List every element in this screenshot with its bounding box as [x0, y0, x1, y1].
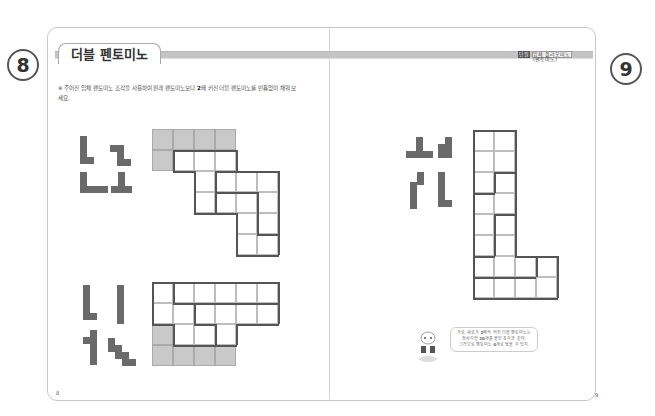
- grid-cell[interactable]: [194, 324, 215, 345]
- grid-cell[interactable]: [194, 192, 215, 213]
- grid-cell[interactable]: [257, 171, 278, 192]
- grid-cell[interactable]: [215, 303, 236, 324]
- grid-cell[interactable]: [473, 193, 494, 214]
- grid-cell[interactable]: [473, 130, 494, 151]
- grid-cell[interactable]: [215, 150, 236, 171]
- grid-cell[interactable]: [536, 277, 557, 298]
- grid-cell[interactable]: [194, 282, 215, 303]
- grid-cell[interactable]: [536, 256, 557, 277]
- grid-cell[interactable]: [473, 172, 494, 193]
- page-title: 더블 펜토미노: [58, 43, 161, 64]
- grid-cell[interactable]: [515, 277, 536, 298]
- mascot-illustration: [413, 330, 443, 365]
- grid-cell[interactable]: [152, 303, 173, 324]
- grid-cell[interactable]: [515, 256, 536, 277]
- grid-cell[interactable]: [152, 282, 173, 303]
- grid-cell[interactable]: [257, 282, 278, 303]
- grid-cell[interactable]: [215, 324, 236, 345]
- grid-cell[interactable]: [473, 214, 494, 235]
- page-number-left: 8: [56, 390, 59, 396]
- page-badge-right: 9: [610, 53, 642, 85]
- grid-cell[interactable]: [215, 282, 236, 303]
- grid-cell[interactable]: [194, 171, 215, 192]
- grid-cell[interactable]: [194, 150, 215, 171]
- grid-cell[interactable]: [257, 213, 278, 234]
- grid-cell[interactable]: [494, 235, 515, 256]
- instruction-prefix: ※ 주어진 입체 펜토미노 조각을 사용하여 원래 펜토미노보다: [58, 85, 197, 91]
- grid-cell[interactable]: [173, 282, 194, 303]
- grid-cell[interactable]: [494, 172, 515, 193]
- grid-cell[interactable]: [494, 193, 515, 214]
- grid-cell[interactable]: [215, 192, 236, 213]
- grid-cell[interactable]: [257, 234, 278, 255]
- hint-line-3: 그러므로 펜토미노 4개로 덮을 수 있지.: [451, 342, 537, 348]
- grid-cell[interactable]: [236, 234, 257, 255]
- grid-cell[interactable]: [236, 192, 257, 213]
- unit-tag-label: 단원: [518, 51, 530, 58]
- unit-tag-text: 입체 폴리오미노(펜토미노): [532, 51, 572, 58]
- page-badge-left: 8: [7, 49, 39, 81]
- grid-cell[interactable]: [473, 256, 494, 277]
- grid-cell[interactable]: [194, 303, 215, 324]
- grid-cell[interactable]: [215, 171, 236, 192]
- grid-cell[interactable]: [494, 277, 515, 298]
- grid-cell[interactable]: [173, 324, 194, 345]
- grid-cell[interactable]: [236, 213, 257, 234]
- grid-cell[interactable]: [473, 151, 494, 172]
- grid-cell[interactable]: [257, 303, 278, 324]
- instruction-text: ※ 주어진 입체 펜토미노 조각을 사용하여 원래 펜토미노보다 2배 커진 더…: [58, 83, 298, 103]
- page-number-right: 9: [595, 392, 598, 398]
- grid-cell[interactable]: [173, 303, 194, 324]
- grid-cell[interactable]: [494, 151, 515, 172]
- grid-cell[interactable]: [236, 171, 257, 192]
- grid-cell[interactable]: [494, 130, 515, 151]
- grid-cell[interactable]: [473, 277, 494, 298]
- hint-speech-bubble: 가로, 세로가 2배씩 커진 더블 펜토미노는 정사각형 20개를 붙인 조각과…: [450, 327, 538, 352]
- grid-cell[interactable]: [257, 192, 278, 213]
- grid-cell[interactable]: [236, 303, 257, 324]
- grid-cell[interactable]: [173, 150, 194, 171]
- grid-cell[interactable]: [473, 235, 494, 256]
- page-spine: [329, 28, 330, 399]
- grid-cell[interactable]: [494, 256, 515, 277]
- grid-cell[interactable]: [494, 214, 515, 235]
- grid-cell[interactable]: [236, 282, 257, 303]
